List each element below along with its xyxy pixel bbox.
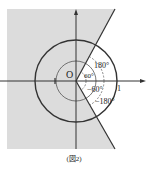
real-axis-arrow-icon [140, 79, 146, 83]
angle-label-minus-60: −60° [87, 85, 103, 94]
angle-label-minus-180: −180° [95, 97, 115, 106]
figure-caption: (図2) [66, 155, 82, 163]
unit-label: 1 [117, 84, 121, 93]
complex-plane-diagram: O 60° 180° −60° −180° 1 (図2) [0, 0, 148, 169]
angle-label-60: 60° [84, 72, 94, 80]
angle-label-180: 180° [94, 61, 109, 70]
arc-minus-60 [81, 81, 86, 90]
origin-label: O [66, 69, 73, 80]
shaded-region [7, 9, 115, 149]
